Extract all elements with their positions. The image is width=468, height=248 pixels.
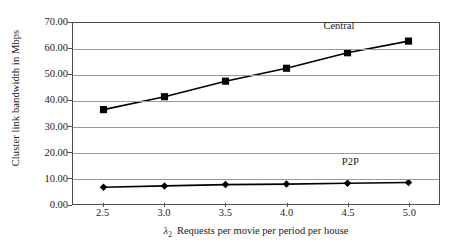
gridline <box>73 179 439 180</box>
x-tick-label: 2.5 <box>96 207 109 219</box>
data-point-marker <box>283 180 291 188</box>
y-tick-label: 20.00 <box>24 148 68 159</box>
x-tick-label: 4.5 <box>341 207 354 219</box>
x-tick-mark <box>287 203 288 207</box>
y-axis-tick-labels: 0.0010.0020.0030.0040.0050.0060.0070.00 <box>24 0 68 248</box>
x-tick-mark <box>164 203 165 207</box>
plot-area <box>72 22 440 205</box>
data-point-marker <box>283 65 290 72</box>
y-tick-label: 50.00 <box>24 69 68 80</box>
x-tick-label: 5.0 <box>403 207 416 219</box>
y-tick-label: 40.00 <box>24 95 68 106</box>
y-tick-label: 60.00 <box>24 43 68 54</box>
series-annotation-p2p: P2P <box>342 156 359 167</box>
series-layer <box>73 23 439 204</box>
data-point-marker <box>405 38 412 45</box>
series-annotation-central: Central <box>323 20 354 31</box>
x-axis-tick-labels: 2.53.03.54.04.55.0 <box>72 207 440 223</box>
data-point-marker <box>161 93 168 100</box>
y-tick-label: 30.00 <box>24 122 68 133</box>
y-tick-mark <box>68 152 72 153</box>
x-tick-label: 3.0 <box>157 207 170 219</box>
series-line <box>104 183 409 188</box>
data-point-marker <box>222 181 230 189</box>
data-point-marker <box>344 49 351 56</box>
y-tick-label: 70.00 <box>24 17 68 28</box>
series-p2p <box>100 179 413 191</box>
data-point-marker <box>161 182 169 190</box>
lambda-subscript: 2 <box>168 230 172 239</box>
data-point-marker <box>344 180 352 188</box>
data-point-marker <box>100 183 108 191</box>
x-tick-mark <box>348 203 349 207</box>
y-tick-mark <box>68 48 72 49</box>
gridline <box>73 75 439 76</box>
y-tick-mark <box>68 22 72 23</box>
chart-figure: Cluster link bandwidth in Mbps 0.0010.00… <box>0 0 468 248</box>
y-tick-label: 0.00 <box>24 200 68 211</box>
x-tick-mark <box>225 203 226 207</box>
y-tick-mark <box>68 126 72 127</box>
gridline <box>73 127 439 128</box>
gridline <box>73 101 439 102</box>
x-tick-mark <box>409 203 410 207</box>
data-point-marker <box>100 106 107 113</box>
y-tick-mark <box>68 74 72 75</box>
y-tick-mark <box>68 178 72 179</box>
x-tick-label: 4.0 <box>280 207 293 219</box>
y-tick-label: 10.00 <box>24 174 68 185</box>
data-point-marker <box>222 78 229 85</box>
x-axis-title: λ2Requests per movie per period per hous… <box>72 224 440 242</box>
y-tick-mark <box>68 205 72 206</box>
x-axis-title-text: Requests per movie per period per house <box>177 225 348 236</box>
x-tick-label: 3.5 <box>219 207 232 219</box>
gridline <box>73 153 439 154</box>
gridline <box>73 49 439 50</box>
y-tick-mark <box>68 100 72 101</box>
x-tick-mark <box>103 203 104 207</box>
